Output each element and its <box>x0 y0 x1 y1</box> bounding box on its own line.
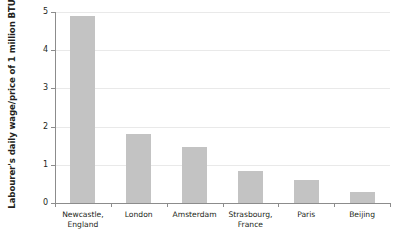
bar <box>126 134 151 203</box>
x-axis-label: Beijing <box>334 210 390 220</box>
y-axis-title: Labourer's daily wage/price of 1 million… <box>2 0 22 203</box>
x-axis-label: London <box>111 210 167 220</box>
y-axis-line <box>55 12 56 204</box>
gridline <box>55 12 390 13</box>
x-axis-label: Paris <box>278 210 334 220</box>
gridline <box>55 88 390 89</box>
bar-chart: Labourer's daily wage/price of 1 million… <box>0 0 410 242</box>
x-axis-tick <box>167 203 168 207</box>
y-axis-tick <box>51 88 55 89</box>
x-axis-tick <box>334 203 335 207</box>
x-axis-label: Amsterdam <box>167 210 223 220</box>
y-axis-label: 0 <box>35 199 48 207</box>
gridline <box>55 127 390 128</box>
x-axis-tick <box>278 203 279 207</box>
gridline <box>55 50 390 51</box>
y-axis-tick <box>51 165 55 166</box>
x-axis-tick <box>55 203 56 207</box>
y-axis-label: 2 <box>35 123 48 131</box>
bar <box>182 147 207 203</box>
y-axis-tick <box>51 50 55 51</box>
x-axis-label: Newcastle, England <box>55 210 111 229</box>
bar <box>350 192 375 204</box>
y-axis-tick <box>51 12 55 13</box>
x-axis-tick <box>223 203 224 207</box>
gridline <box>55 165 390 166</box>
y-axis-label: 4 <box>35 46 48 54</box>
bar <box>70 16 95 203</box>
x-axis-tick <box>390 203 391 207</box>
x-axis-tick <box>111 203 112 207</box>
y-axis-label: 5 <box>35 8 48 16</box>
y-axis-label: 3 <box>35 84 48 92</box>
bar <box>294 180 319 203</box>
y-axis-label: 1 <box>35 161 48 169</box>
x-axis-label: Strasbourg, France <box>223 210 279 229</box>
plot-area <box>55 12 390 203</box>
bar <box>238 171 263 203</box>
y-axis-tick <box>51 127 55 128</box>
